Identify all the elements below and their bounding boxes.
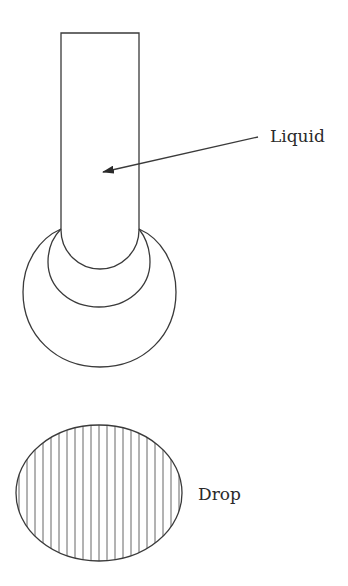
outer-drop-bulge	[23, 229, 176, 367]
drop-formation-diagram: Liquid Drop	[0, 0, 348, 586]
liquid-label: Liquid	[270, 126, 325, 146]
drop-label: Drop	[198, 484, 241, 504]
capillary-tube	[61, 33, 139, 269]
drop-hatching	[19, 420, 179, 566]
middle-drop-bulge	[48, 229, 150, 307]
liquid-pointer-arrow	[103, 137, 258, 172]
